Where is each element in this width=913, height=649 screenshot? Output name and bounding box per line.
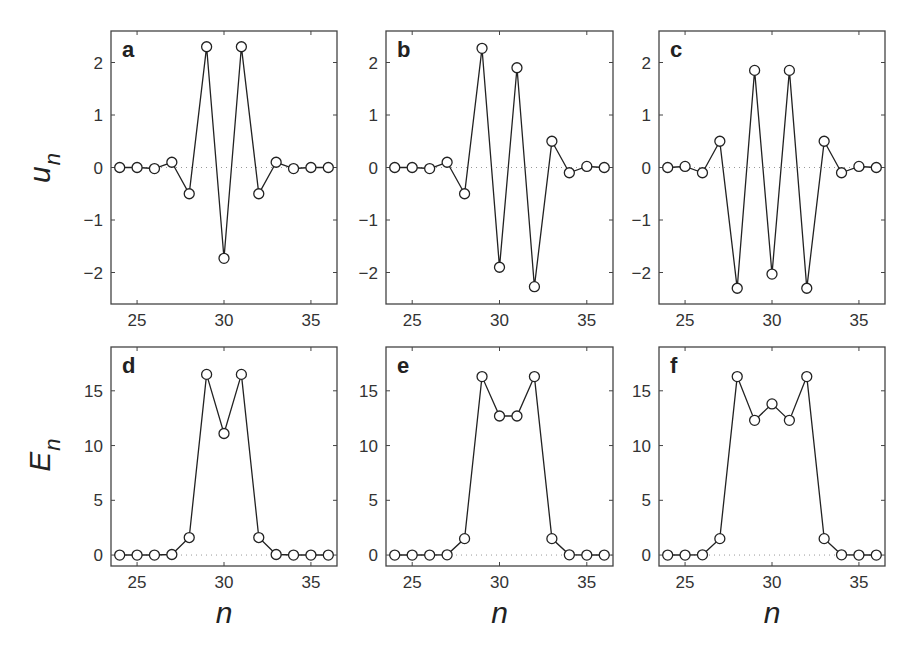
y-tick-label: 5 (369, 491, 378, 510)
data-point-marker (529, 282, 539, 292)
data-point-marker (425, 550, 435, 560)
y-tick-label: −2 (632, 264, 651, 283)
x-tick-label: 35 (849, 311, 868, 330)
axes-frame (386, 347, 613, 566)
y-tick-label: 0 (369, 546, 378, 565)
y-tick-label: 2 (94, 54, 103, 73)
data-point-marker (854, 550, 864, 560)
data-point-marker (167, 550, 177, 560)
ylabel-row-top: un (23, 153, 65, 183)
y-tick-label: 15 (84, 382, 103, 401)
panel-d: 253035051015dn (84, 347, 337, 629)
y-tick-label: 2 (642, 54, 651, 73)
data-point-marker (219, 253, 229, 263)
data-point-marker (732, 283, 742, 293)
x-tick-label: 30 (763, 311, 782, 330)
data-point-marker (750, 415, 760, 425)
x-tick-label: 35 (301, 311, 320, 330)
y-tick-label: −1 (84, 211, 103, 230)
panel-label: f (670, 353, 678, 378)
data-point-marker (680, 550, 690, 560)
data-point-marker (750, 65, 760, 75)
x-tick-label: 30 (215, 573, 234, 592)
y-tick-label: 0 (642, 159, 651, 178)
y-tick-label: 1 (642, 106, 651, 125)
y-tick-label: 15 (359, 382, 378, 401)
x-tick-label: 30 (490, 311, 509, 330)
y-tick-label: 10 (84, 437, 103, 456)
y-tick-label: 15 (632, 382, 651, 401)
data-point-marker (236, 42, 246, 52)
data-point-marker (167, 157, 177, 167)
y-tick-label: 5 (642, 491, 651, 510)
data-point-marker (854, 161, 864, 171)
data-point-marker (767, 269, 777, 279)
panel-e: 253035051015en (359, 347, 613, 629)
data-point-marker (547, 136, 557, 146)
figure: un En 253035−2−1012a253035−2−1012b253035… (0, 0, 913, 649)
data-point-marker (495, 411, 505, 421)
x-tick-label: 30 (490, 573, 509, 592)
y-tick-label: 0 (369, 159, 378, 178)
data-point-marker (202, 369, 212, 379)
panel-label: b (397, 37, 410, 62)
x-tick-label: 25 (676, 573, 695, 592)
x-tick-label: 25 (403, 573, 422, 592)
x-axis-label: n (491, 596, 508, 629)
data-point-marker (564, 550, 574, 560)
data-point-marker (802, 283, 812, 293)
panel-f: 253035051015fn (632, 347, 885, 629)
data-point-marker (115, 163, 125, 173)
data-point-marker (132, 163, 142, 173)
data-point-marker (512, 63, 522, 73)
x-tick-label: 25 (128, 311, 147, 330)
y-tick-label: 5 (94, 491, 103, 510)
data-point-marker (477, 43, 487, 53)
x-tick-label: 35 (577, 573, 596, 592)
data-point-marker (306, 163, 316, 173)
y-tick-label: −2 (84, 264, 103, 283)
data-point-marker (529, 372, 539, 382)
data-point-marker (460, 189, 470, 199)
six-panel-line-chart: un En 253035−2−1012a253035−2−1012b253035… (0, 0, 913, 649)
data-point-marker (202, 42, 212, 52)
data-point-marker (425, 164, 435, 174)
data-point-marker (680, 161, 690, 171)
y-tick-label: 1 (369, 106, 378, 125)
data-point-marker (254, 533, 264, 543)
data-point-marker (271, 550, 281, 560)
data-point-marker (784, 415, 794, 425)
y-tick-label: 0 (94, 159, 103, 178)
data-point-marker (715, 534, 725, 544)
data-point-marker (390, 163, 400, 173)
data-point-marker (599, 550, 609, 560)
data-point-marker (149, 550, 159, 560)
data-point-marker (582, 550, 592, 560)
panel-label: d (122, 353, 135, 378)
data-point-marker (289, 164, 299, 174)
y-tick-label: 0 (642, 546, 651, 565)
data-point-marker (219, 429, 229, 439)
data-point-marker (460, 534, 470, 544)
data-point-marker (599, 163, 609, 173)
axes-frame (659, 31, 885, 304)
x-axis-label: n (764, 596, 781, 629)
panel-label: c (670, 37, 682, 62)
x-tick-label: 35 (577, 311, 596, 330)
data-point-marker (236, 369, 246, 379)
data-point-marker (697, 550, 707, 560)
data-point-marker (837, 550, 847, 560)
y-tick-label: 2 (369, 54, 378, 73)
data-point-marker (715, 136, 725, 146)
data-point-marker (132, 550, 142, 560)
y-tick-label: −2 (359, 264, 378, 283)
data-point-marker (149, 164, 159, 174)
svg-text:un: un (23, 153, 65, 183)
data-point-marker (289, 550, 299, 560)
data-point-marker (871, 550, 881, 560)
x-tick-label: 25 (403, 311, 422, 330)
x-tick-label: 35 (849, 573, 868, 592)
svg-text:En: En (23, 438, 65, 471)
data-point-marker (271, 157, 281, 167)
data-point-marker (115, 550, 125, 560)
